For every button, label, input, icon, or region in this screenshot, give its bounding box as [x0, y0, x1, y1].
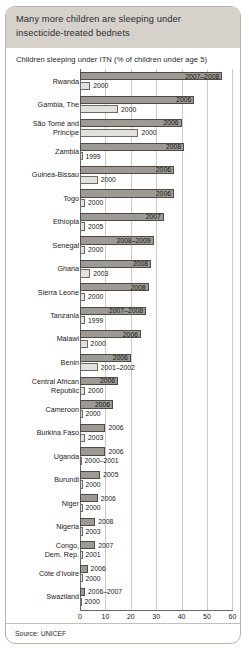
category-label-line: Gambia, The [5, 101, 79, 109]
category-label-line: Principe [5, 129, 79, 137]
bar-value-label: 2006 [113, 354, 128, 362]
bar-baseline [80, 246, 85, 254]
chart-row: Malawi20062000 [6, 329, 241, 352]
bar-baseline [80, 410, 83, 418]
category-label-line: Niger [5, 500, 79, 508]
category-label-line: Rwanda [5, 78, 79, 86]
x-tick-label: 40 [178, 613, 186, 620]
category-label-line: Swaziland [5, 593, 79, 601]
bar-value-label: 2003 [86, 528, 101, 536]
bar-value-label: 2006 [123, 331, 138, 339]
chart-row: Swaziland2006–20072000 [6, 587, 241, 610]
bar-value-label: 2001–2002 [101, 364, 135, 372]
bar-value-label: 1999 [88, 317, 103, 325]
chart-row: Sierra Leone20082000 [6, 282, 241, 305]
x-tick-label: 60 [228, 613, 236, 620]
category-label: Benin [5, 359, 79, 367]
bar-baseline [80, 316, 85, 324]
category-label-line: Uganda [5, 453, 79, 461]
bar-baseline [80, 574, 83, 582]
category-label: Burundi [5, 476, 79, 484]
category-label-line: Burundi [5, 476, 79, 484]
category-label: Ghana [5, 265, 79, 273]
bar-baseline [80, 82, 90, 90]
bar-value-label: 2000 [101, 176, 116, 184]
chart-row: Niger20062000 [6, 493, 241, 516]
bar-value-label: 2006 [156, 166, 171, 174]
category-label: Zambia [5, 148, 79, 156]
x-tick-label: 50 [203, 613, 211, 620]
bar-value-label: 2005 [103, 471, 118, 479]
category-label: Senegal [5, 242, 79, 250]
bar-value-label: 2001 [86, 551, 101, 559]
category-label: Burkina Faso [5, 429, 79, 437]
category-label: Sierra Leone [5, 289, 79, 297]
category-label: Gambia, The [5, 101, 79, 109]
bar-baseline [80, 293, 85, 301]
category-label: Central AfricanRepublic [5, 378, 79, 395]
chart-row: Congo,Dem. Rep.20072001 [6, 540, 241, 563]
bar-value-label: 2008 [130, 284, 145, 292]
bar-baseline [80, 269, 90, 277]
bar-value-label: 2006–2007 [88, 588, 122, 596]
bar-value-label: 1999 [86, 153, 101, 161]
x-tick-label: 20 [127, 613, 135, 620]
chart-row: Cameroon20062000 [6, 399, 241, 422]
category-label-line: Togo [5, 195, 79, 203]
bar-value-label: 2003 [88, 434, 103, 442]
bar-value-label: 2000 [86, 410, 101, 418]
category-label: Cameroon [5, 406, 79, 414]
bar-baseline [80, 551, 83, 559]
bar-value-label: 2000 [141, 129, 156, 137]
source-note: Source: UNICEF [15, 630, 66, 637]
category-label-line: Côte d'Ivoire [5, 570, 79, 578]
bar-baseline [80, 480, 83, 488]
bar-chart: Rwanda2007–20082000Gambia, The20062000Sã… [6, 69, 241, 621]
chart-row: São Tomé andPrincipe20062000 [6, 118, 241, 141]
category-label: Togo [5, 195, 79, 203]
bar-value-label: 2000 [121, 106, 136, 114]
bar-value-label: 2006 [100, 377, 115, 385]
chart-row: Senegal2008–20092000 [6, 235, 241, 258]
bar-recent [80, 588, 85, 596]
chart-row: Burundi20052000 [6, 470, 241, 493]
bar-baseline [80, 387, 85, 395]
bar-recent [80, 424, 105, 432]
bar-baseline [80, 504, 83, 512]
category-label-line: Cameroon [5, 406, 79, 414]
category-label: Congo,Dem. Rep. [5, 542, 79, 559]
bar-value-label: 2005 [88, 223, 103, 231]
bar-baseline [80, 457, 82, 465]
x-axis-line [80, 610, 233, 611]
category-label-line: Nigeria [5, 523, 79, 531]
category-label: Nigeria [5, 523, 79, 531]
bar-baseline [80, 176, 98, 184]
chart-plot-area: Rwanda2007–20082000Gambia, The20062000Sã… [6, 69, 241, 621]
category-label-line: Zambia [5, 148, 79, 156]
category-label-line: Senegal [5, 242, 79, 250]
source-divider [6, 623, 240, 624]
chart-row: Rwanda2007–20082000 [6, 71, 241, 94]
bar-value-label: 2000 [86, 504, 101, 512]
x-tick-label: 0 [78, 613, 82, 620]
chart-row: Ethiopia20072005 [6, 212, 241, 235]
chart-row: Uganda20062000–2001 [6, 446, 241, 469]
bar-value-label: 2000–2001 [85, 457, 119, 465]
bar-value-label: 2006 [176, 96, 191, 104]
category-label-line: Burkina Faso [5, 429, 79, 437]
bar-baseline [80, 434, 85, 442]
chart-row: Tanzania2007–20081999 [6, 306, 241, 329]
bar-value-label: 2000 [88, 293, 103, 301]
category-label: Côte d'Ivoire [5, 570, 79, 578]
bar-baseline [80, 152, 83, 160]
bar-baseline [80, 363, 98, 371]
chart-row: Nigeria20082003 [6, 517, 241, 540]
bar-recent [80, 518, 95, 526]
chart-row: Guinea-Bissau20062000 [6, 165, 241, 188]
bar-value-label: 2000 [86, 575, 101, 583]
bar-value-label: 2000 [88, 199, 103, 207]
category-label-line: Guinea-Bissau [5, 171, 79, 179]
category-label: Ethiopia [5, 218, 79, 226]
category-label-line: Ghana [5, 265, 79, 273]
category-label-line: Ethiopia [5, 218, 79, 226]
